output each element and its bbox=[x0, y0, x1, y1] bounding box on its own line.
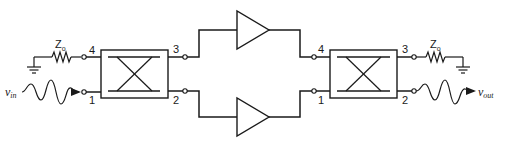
vin-label: vin bbox=[5, 85, 17, 100]
resistor-icon bbox=[52, 52, 71, 62]
z0-label-left: Zo bbox=[55, 38, 66, 52]
left-coupler-port-3-label: 3 bbox=[173, 43, 179, 55]
left-coupler-port-2-label: 2 bbox=[173, 94, 179, 106]
right-coupler-port-4-label: 4 bbox=[318, 43, 324, 55]
left-coupler-terminal-1 bbox=[82, 90, 86, 94]
output-signal: vout bbox=[416, 80, 494, 104]
right-coupler-port-3-label: 3 bbox=[402, 43, 408, 55]
left-coupler-port-1-label: 1 bbox=[89, 94, 95, 106]
amplifier-triangle-icon bbox=[237, 98, 269, 136]
right-coupler-port-1-label: 1 bbox=[318, 94, 324, 106]
left-coupler-port-4-label: 4 bbox=[89, 44, 95, 56]
left-coupler-terminal-2 bbox=[183, 89, 187, 93]
z0-label-right: Zo bbox=[430, 38, 441, 52]
amplifier-triangle-icon bbox=[237, 11, 269, 49]
ground-icon bbox=[27, 57, 41, 73]
right-coupler: 4 1 3 2 bbox=[318, 43, 408, 106]
balanced-amplifier-diagram: Zo vin 4 1 3 2 bbox=[0, 0, 505, 144]
left-termination: Zo bbox=[27, 38, 81, 73]
ground-icon bbox=[456, 57, 470, 73]
resistor-icon bbox=[426, 52, 445, 62]
sine-wave-arrow-icon bbox=[416, 80, 474, 104]
input-source: vin bbox=[5, 80, 79, 104]
left-coupler-terminal-3 bbox=[183, 55, 187, 59]
vout-label: vout bbox=[478, 85, 494, 100]
right-coupler-port-2-label: 2 bbox=[402, 94, 408, 106]
sine-wave-arrow-icon bbox=[22, 80, 79, 104]
right-coupler-terminal-3 bbox=[412, 55, 416, 59]
left-coupler: 4 1 3 2 bbox=[89, 43, 179, 106]
right-coupler-terminal-2 bbox=[412, 89, 416, 93]
right-termination: Zo bbox=[416, 38, 470, 73]
right-coupler-terminal-4 bbox=[312, 55, 316, 59]
left-coupler-terminal-4 bbox=[82, 55, 86, 59]
right-coupler-terminal-1 bbox=[312, 89, 316, 93]
